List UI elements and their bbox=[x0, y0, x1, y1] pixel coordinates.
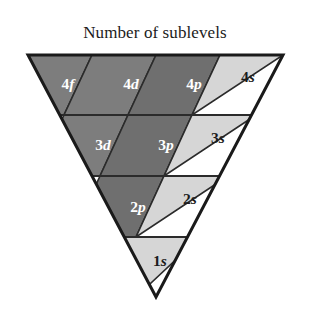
figure-title: Number of sublevels bbox=[0, 23, 310, 43]
cell-4s-label: 4s bbox=[241, 68, 255, 85]
cell-3d-label: 3d bbox=[95, 136, 111, 153]
sublevels-triangle-figure: Number of sublevels 4f4d4p4s3d3p3s2p2s1s bbox=[0, 0, 310, 313]
cell-3s-label: 3s bbox=[211, 129, 225, 146]
cell-2s-label: 2s bbox=[183, 190, 197, 207]
cell-2p-label: 2p bbox=[130, 198, 146, 215]
cell-4d-label: 4d bbox=[123, 75, 139, 92]
cell-1s bbox=[72, 237, 200, 297]
cell-1s-label: 1s bbox=[153, 252, 167, 269]
orbital-triangle-diagram: 4f4d4p4s3d3p3s2p2s1s bbox=[0, 0, 310, 313]
cell-3p-label: 3p bbox=[158, 136, 174, 153]
cell-4f-label: 4f bbox=[62, 75, 77, 92]
cell-4p-label: 4p bbox=[186, 75, 202, 92]
